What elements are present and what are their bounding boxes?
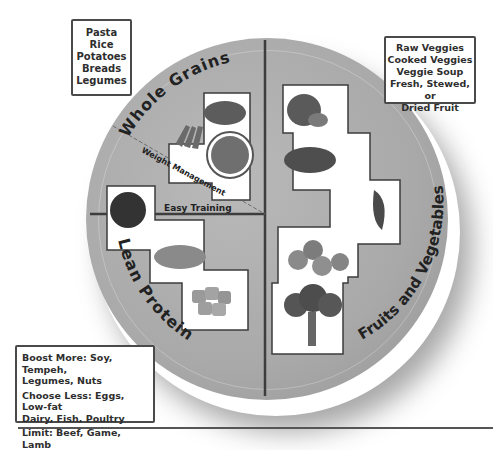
food-black-beans — [110, 192, 146, 228]
callout-line: Boost More: Soy, Tempeh, — [22, 352, 153, 375]
callout-line: Limit: Beef, Game, Lamb — [22, 427, 153, 450]
callout-line: Rice — [73, 39, 130, 51]
callout-line: Dairy, Fish, Poultry — [22, 413, 153, 425]
food-lentils — [154, 245, 206, 269]
bottom-rule — [18, 427, 493, 429]
callout-line: Legumes — [73, 75, 130, 87]
fruits-veg-callout: Raw Veggies Cooked Veggies Veggie Soup F… — [384, 36, 476, 104]
callout-line: Potatoes — [73, 51, 130, 63]
food-pasta-bowl — [207, 132, 253, 178]
callout-line: Legumes, Nuts — [22, 375, 153, 387]
food-pomegranate — [284, 147, 336, 173]
callout-line: Breads — [73, 63, 130, 75]
callout-line: Veggie Soup — [386, 66, 474, 78]
grains-callout: Pasta Rice Potatoes Breads Legumes — [71, 19, 132, 96]
callout-line: Raw Veggies — [386, 42, 474, 54]
protein-callout: Boost More: Soy, Tempeh, Legumes, Nuts C… — [15, 345, 155, 423]
callout-line: Dried Fruit — [386, 102, 474, 114]
food-grain-pile — [204, 101, 246, 125]
callout-line: Fresh, Stewed, or — [386, 78, 474, 102]
label-easy-training: Easy Training — [164, 203, 232, 213]
callout-line: Pasta — [73, 27, 130, 39]
callout-line: Cooked Veggies — [386, 54, 474, 66]
callout-line: Choose Less: Eggs, Low-fat — [22, 390, 153, 413]
